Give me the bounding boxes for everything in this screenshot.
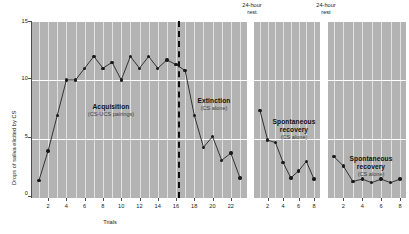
data-point [297,169,300,172]
recovery-2-title-line1: Spontaneous [341,155,401,163]
grid-line-vertical [167,21,168,198]
recovery-2-subtitle: (CS alone) [341,171,401,178]
x-tick-mark [194,198,195,201]
grid-line-vertical [275,21,276,198]
acquisition-subtitle: (CS-UCS pairings) [63,111,159,118]
data-point [56,114,59,117]
extinction-label: Extinction (CS alone) [186,97,242,111]
rest-label-2-line1: 24-hour [302,2,350,9]
y-axis-title: Drops of saliva elicited by CS [11,111,17,185]
y-tick-5: 5 [16,133,28,139]
grid-line-vertical [314,21,315,198]
data-point [101,67,104,70]
extinction-subtitle: (CS alone) [186,105,242,112]
y-tick-mark-15 [28,21,31,22]
data-point [238,176,241,179]
data-point [379,177,382,180]
y-tick-10: 10 [16,75,28,81]
rest-label-2: 24-hour rest [302,2,350,15]
recovery-1-title-line2: recovery [265,126,323,134]
data-point [361,177,364,180]
x-tick-label: 2 [335,203,351,209]
x-tick-mark [85,198,86,201]
rest-label-1: 24-hour rest [228,2,276,15]
data-point [305,160,308,163]
grid-line-horizontal [32,139,247,140]
data-point [74,78,77,81]
x-tick-label: 6 [77,203,93,209]
data-point [120,78,123,81]
grid-line-horizontal [328,139,406,140]
data-point [289,176,292,179]
x-tick-label: 4 [58,203,74,209]
x-tick-mark [231,198,232,201]
y-tick-mark-10 [28,78,31,79]
x-tick-label: 6 [373,203,389,209]
grid-line-vertical [268,21,269,198]
x-tick-mark [103,198,104,201]
x-tick-mark [121,198,122,201]
grid-line-horizontal [254,80,320,81]
x-tick-mark [66,198,67,201]
x-tick-mark [213,198,214,201]
grid-line-vertical [334,21,335,198]
x-tick-label: 2 [260,203,276,209]
grid-line-vertical [291,21,292,198]
data-point [193,114,196,117]
y-tick-15: 15 [16,18,28,24]
grid-line-vertical [176,21,177,198]
x-tick-label: 4 [275,203,291,209]
grid-line-horizontal [328,21,406,22]
data-point [37,179,40,182]
grid-line-vertical [39,21,40,198]
x-tick-label: 20 [205,203,221,209]
y-tick-mark-5 [28,137,31,138]
y-tick-mark-0 [28,196,31,197]
x-tick-label: 12 [132,203,148,209]
x-tick-mark [314,198,315,201]
recovery-1-subtitle: (CS alone) [265,134,323,141]
x-tick-mark [381,198,382,201]
grid-line-vertical [306,21,307,198]
grid-line-vertical [283,21,284,198]
data-point [165,58,168,61]
x-axis-title: Trials [90,219,130,225]
x-tick-label: 10 [113,203,129,209]
acquisition-label: Acquisition (CS-UCS pairings) [63,103,159,117]
phase-divider [178,21,180,198]
x-tick-label: 8 [95,203,111,209]
x-tick-label: 18 [186,203,202,209]
chart-root: Drops of saliva elicited by CS 15 10 5 0… [0,0,409,234]
recovery-2-title-line2: recovery [341,163,401,171]
x-tick-mark [362,198,363,201]
data-point [92,55,95,58]
rest-label-1-line1: 24-hour [228,2,276,9]
x-tick-mark [268,198,269,201]
x-tick-mark [158,198,159,201]
grid-line-horizontal [32,21,247,22]
grid-line-horizontal [328,80,406,81]
x-tick-label: 4 [354,203,370,209]
x-tick-mark [140,198,141,201]
data-point [312,177,315,180]
x-tick-mark [176,198,177,201]
data-point [110,61,113,64]
extinction-title: Extinction [186,97,242,105]
x-tick-label: 8 [392,203,408,209]
recovery-1-title-line1: Spontaneous [265,118,323,126]
rest-label-1-line2: rest [228,9,276,16]
data-point [202,146,205,149]
x-tick-label: 6 [291,203,307,209]
x-tick-mark [299,198,300,201]
panel-spontaneous-recovery-1 [254,21,320,198]
data-point [351,180,354,183]
data-point [138,67,141,70]
grid-line-vertical [48,21,49,198]
x-tick-label: 22 [223,203,239,209]
y-tick-0: 0 [16,190,28,196]
x-tick-label: 2 [40,203,56,209]
grid-line-vertical [57,21,58,198]
grid-line-horizontal [254,21,320,22]
data-point [46,149,49,152]
data-point [65,78,68,81]
